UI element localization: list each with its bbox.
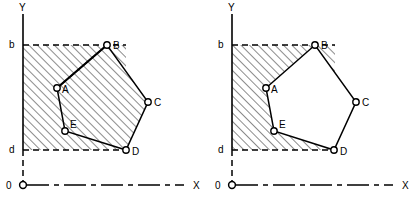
vertex-c[interactable] [353,99,359,105]
panel-right: A B C D E Y X 0 b d [208,0,416,202]
vertex-e[interactable] [62,128,68,134]
vertex-label-a: A [62,84,69,95]
vertex-label-c: C [362,97,369,108]
figure-root: A B C D E Y X 0 b d [0,0,416,202]
diagram-canvas: A B C D E Y X 0 b d [0,0,416,202]
origin-marker [20,182,27,189]
bound-label-b: b [9,39,15,50]
vertex-label-c: C [154,97,161,108]
vertex-a[interactable] [263,85,269,91]
vertex-label-e: E [279,119,286,130]
y-axis-label: Y [19,2,26,13]
vertex-label-b: B [321,40,328,51]
hatched-region-union [0,0,208,202]
vertex-label-d: D [132,146,139,157]
vertex-b[interactable] [104,42,110,48]
hatched-region-difference [208,0,416,202]
x-axis-label: X [402,180,409,191]
origin-label: 0 [6,180,12,191]
vertex-label-b: B [113,40,120,51]
vertex-label-d: D [340,146,347,157]
panel-left: A B C D E Y X 0 b d [0,0,208,202]
vertex-label-e: E [70,119,77,130]
origin-marker [229,182,236,189]
vertex-label-a: A [271,84,278,95]
y-axis-label: Y [228,2,235,13]
vertex-b[interactable] [312,42,318,48]
bound-label-b: b [218,39,224,50]
vertex-a[interactable] [54,85,60,91]
bound-label-d: d [218,144,224,155]
vertex-c[interactable] [145,99,151,105]
vertex-e[interactable] [271,128,277,134]
vertex-d[interactable] [331,147,337,153]
vertex-d[interactable] [123,147,129,153]
bound-label-d: d [9,144,15,155]
x-axis-label: X [193,180,200,191]
origin-label: 0 [215,180,221,191]
